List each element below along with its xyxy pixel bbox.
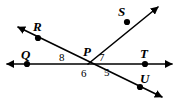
angle-label-6: 6: [81, 68, 87, 79]
angle-label-5: 5: [104, 67, 110, 78]
point-label-t: T: [140, 47, 148, 60]
point-dot-r: [35, 35, 41, 41]
geometry-diagram: Q R P S T U 8 6 7 5: [0, 0, 177, 102]
point-label-u: U: [140, 72, 149, 85]
point-label-q: Q: [21, 48, 30, 61]
point-label-s: S: [118, 5, 125, 18]
point-label-r: R: [33, 20, 42, 33]
angle-label-8: 8: [59, 52, 65, 63]
point-label-p: P: [83, 45, 91, 58]
angle-label-7: 7: [99, 52, 105, 63]
point-dot-t: [142, 61, 148, 67]
point-dot-s: [124, 19, 130, 25]
